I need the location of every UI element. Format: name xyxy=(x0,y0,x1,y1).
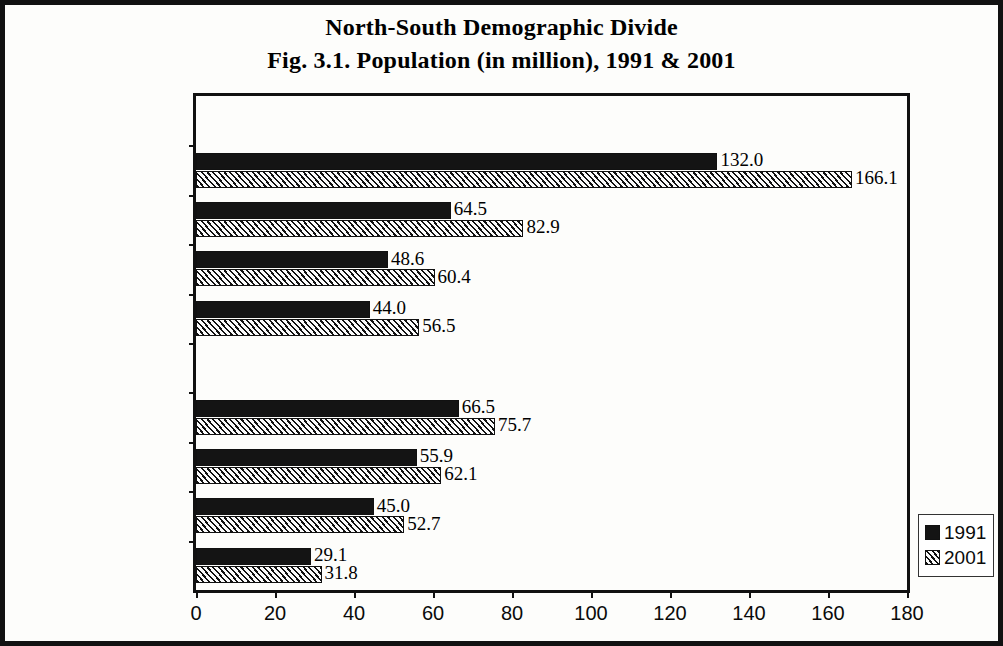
y-axis-tick xyxy=(189,491,196,493)
bar-1991 xyxy=(196,301,370,318)
chart-category-row: Tamil Nadu55.962.1 xyxy=(196,442,907,491)
bar-2001 xyxy=(196,269,435,286)
bar-value-label: 66.5 xyxy=(462,397,495,416)
plot-inner: 020406080100120140160180NORTHUttar Prade… xyxy=(196,96,907,590)
x-axis-tick-label: 180 xyxy=(890,602,923,624)
bar-value-label: 62.1 xyxy=(444,464,477,483)
bar-2001 xyxy=(196,319,419,336)
chart-category-row: Uttar Pradesh132.0166.1 xyxy=(196,145,907,194)
x-axis-tick-label: 40 xyxy=(343,602,365,624)
bar-1991 xyxy=(196,400,459,417)
bar-value-label: 45.0 xyxy=(377,496,410,515)
chart-title-line-1: North-South Demographic Divide xyxy=(5,11,998,44)
x-axis-tick xyxy=(670,590,672,598)
y-axis-tick xyxy=(189,244,196,246)
x-axis-tick xyxy=(433,590,435,598)
chart-category-row: Bihar64.582.9 xyxy=(196,195,907,244)
bar-value-label: 44.0 xyxy=(373,298,406,317)
x-axis-tick xyxy=(275,590,277,598)
bar-2001 xyxy=(196,220,523,237)
x-axis-tick xyxy=(828,590,830,598)
bar-value-label: 60.4 xyxy=(438,267,471,286)
bar-1991 xyxy=(196,498,374,515)
bar-value-label: 56.5 xyxy=(422,316,455,335)
bar-1991 xyxy=(196,548,311,565)
x-axis-tick-label: 140 xyxy=(732,602,765,624)
chart-category-row: NORTH xyxy=(196,96,907,145)
bar-value-label: 166.1 xyxy=(855,168,898,187)
legend-swatch-2001-icon xyxy=(925,550,940,565)
x-axis-tick-label: 80 xyxy=(501,602,523,624)
bar-value-label: 132.0 xyxy=(720,150,763,169)
chart-title-block: North-South Demographic Divide Fig. 3.1.… xyxy=(5,11,998,77)
legend-entry-2001: 2001 xyxy=(925,545,989,570)
chart-category-row: Madhya Pradesh48.660.4 xyxy=(196,244,907,293)
bar-value-label: 52.7 xyxy=(407,514,440,533)
chart-category-row: Andhra Pradesh66.575.7 xyxy=(196,392,907,441)
bar-1991 xyxy=(196,202,451,219)
y-axis-tick xyxy=(189,145,196,147)
bar-value-label: 64.5 xyxy=(454,199,487,218)
bar-1991 xyxy=(196,251,388,268)
y-axis-tick xyxy=(189,343,196,345)
x-axis-tick-label: 100 xyxy=(574,602,607,624)
x-axis-tick-label: 120 xyxy=(653,602,686,624)
chart-category-row: Kerala29.131.8 xyxy=(196,541,907,590)
bar-2001 xyxy=(196,171,852,188)
figure-container: North-South Demographic Divide Fig. 3.1.… xyxy=(0,0,1003,646)
x-axis-tick xyxy=(512,590,514,598)
x-axis-tick xyxy=(591,590,593,598)
y-axis-tick xyxy=(189,392,196,394)
chart-category-row: Karnataka45.052.7 xyxy=(196,491,907,540)
bar-2001 xyxy=(196,467,441,484)
x-axis-tick xyxy=(907,590,909,598)
x-axis-tick-label: 160 xyxy=(811,602,844,624)
legend-label-1991: 1991 xyxy=(944,523,986,542)
bar-value-label: 82.9 xyxy=(526,217,559,236)
x-axis-tick xyxy=(354,590,356,598)
bar-value-label: 31.8 xyxy=(325,563,358,582)
bar-2001 xyxy=(196,516,404,533)
bar-1991 xyxy=(196,449,417,466)
chart-category-row: SOUTH xyxy=(196,343,907,392)
y-axis-tick xyxy=(189,195,196,197)
y-axis-tick xyxy=(189,541,196,543)
bar-1991 xyxy=(196,153,717,170)
legend-label-2001: 2001 xyxy=(944,548,986,567)
x-axis-tick-label: 60 xyxy=(422,602,444,624)
y-axis-tick xyxy=(189,294,196,296)
bar-value-label: 48.6 xyxy=(391,249,424,268)
legend-entry-1991: 1991 xyxy=(925,520,989,545)
bar-2001 xyxy=(196,566,322,583)
x-axis-tick-label: 20 xyxy=(264,602,286,624)
x-axis-tick xyxy=(749,590,751,598)
chart-category-row: Rajasthan44.056.5 xyxy=(196,294,907,343)
bar-2001 xyxy=(196,418,495,435)
x-axis-tick-label: 0 xyxy=(190,602,201,624)
chart-title-line-2: Fig. 3.1. Population (in million), 1991 … xyxy=(5,44,998,77)
x-axis-tick xyxy=(196,590,198,598)
chart-legend: 1991 2001 xyxy=(918,514,994,577)
plot-area: 020406080100120140160180NORTHUttar Prade… xyxy=(193,93,910,593)
legend-swatch-1991-icon xyxy=(925,525,940,540)
bar-value-label: 75.7 xyxy=(498,415,531,434)
y-axis-tick xyxy=(189,442,196,444)
